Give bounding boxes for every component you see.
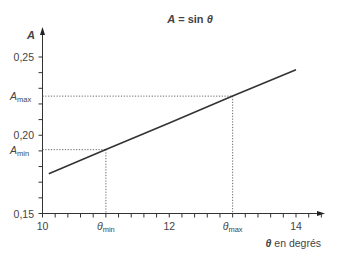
y-tick-label: 0,25: [14, 51, 35, 63]
cropped-top-text: [0, 0, 337, 3]
axes: [43, 32, 321, 214]
y-tick-label: 0,20: [14, 129, 35, 141]
y-ticks: [39, 57, 43, 214]
guide-y-label: Amin: [9, 144, 29, 158]
guide-x-label: θmin: [97, 220, 115, 234]
x-tick-label: 10: [37, 220, 49, 232]
chart-title: A = sin θ: [166, 13, 213, 25]
y-tick-label: 0,15: [14, 208, 35, 220]
chart-svg: A = sin θ A 101214 0,150,200,25 Aminθmin…: [0, 0, 337, 267]
x-axis-label: θ en degrés: [266, 237, 321, 249]
x-ticks: [43, 214, 322, 218]
guide-x-label: θmax: [223, 220, 243, 234]
data-line: [49, 70, 296, 174]
x-tick-labels: 101214: [37, 220, 302, 232]
guide-y-label: Amax: [9, 90, 31, 104]
x-tick-label: 12: [163, 220, 175, 232]
y-axis-label: A: [26, 29, 35, 41]
y-axis-arrow-icon: [40, 27, 45, 35]
guide-lines: AminθminAmaxθmax: [9, 90, 243, 234]
x-tick-label: 14: [290, 220, 302, 232]
y-tick-labels: 0,150,200,25: [14, 51, 35, 220]
